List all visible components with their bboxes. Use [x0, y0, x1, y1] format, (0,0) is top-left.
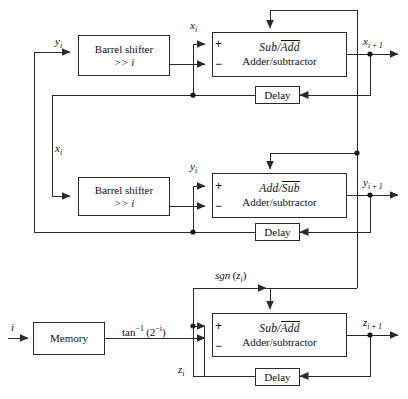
label-arctan-fn: tan — [122, 326, 135, 338]
label-index-i: i — [11, 322, 14, 333]
label-sgn-close: ) — [243, 269, 247, 281]
barrel-shifter-1-line1: Barrel shifter — [95, 43, 153, 56]
label-y-out-sub: i + 1 — [368, 182, 383, 191]
label-z-i: zi — [178, 364, 185, 378]
adder-3-operation: Sub/Add — [259, 322, 299, 335]
delay-2[interactable]: Delay — [255, 223, 300, 241]
adder-3-plus-sign: + — [215, 320, 222, 332]
adder-3-minus-sign: − — [215, 340, 222, 352]
wire-zi-riser — [204, 326, 205, 376]
junction-x-feedback — [190, 92, 195, 97]
wire-xi-to-adder1-plus — [193, 44, 205, 98]
label-x-i2-sub: i — [60, 148, 62, 157]
adder-2-plus-sign: + — [215, 180, 222, 192]
adder-subtractor-3[interactable]: Sub/Add Adder/subtractor — [212, 313, 347, 357]
barrel-shifter-1-line2: >> i — [114, 56, 135, 69]
junction-z-out — [367, 332, 372, 337]
label-arctan-rom-output: tan−1 (2−i) — [122, 325, 166, 338]
delay-2-label: Delay — [264, 226, 290, 239]
wire-yi-to-adder2-plus — [193, 186, 205, 232]
adder-3-subtitle: Adder/subtractor — [242, 336, 317, 349]
label-arctan-arg-close: ) — [162, 326, 166, 338]
adder-2-op-left: Add — [259, 182, 278, 194]
barrel-shifter-2[interactable]: Barrel shifter >> i — [78, 177, 170, 216]
adder-1-operation: Sub/Add — [259, 41, 299, 54]
adder-subtractor-2[interactable]: Add/Sub Adder/subtractor — [212, 173, 347, 218]
label-sgn-fn: sgn — [215, 269, 230, 281]
label-x-i-stage1: xi — [190, 20, 197, 34]
junction-y-feedback — [190, 229, 195, 234]
label-sgn-z-i: sgn (zi) — [215, 270, 246, 284]
label-x-i-sub: i — [195, 25, 197, 34]
adder-3-op-left: Sub — [259, 322, 277, 334]
label-z-i-sub: i — [182, 369, 184, 378]
adder-2-operation: Add/Sub — [259, 182, 299, 195]
junction-y-out — [367, 192, 372, 197]
barrel-shifter-2-line2: >> i — [114, 197, 135, 210]
label-y-i-sub: i — [60, 41, 62, 50]
label-y-i-stage2: yi — [190, 161, 197, 175]
delay-1[interactable]: Delay — [255, 86, 300, 104]
memory-rom[interactable]: Memory — [33, 322, 105, 355]
adder-1-plus-sign: + — [215, 38, 222, 50]
label-x-i-stage2: xi — [55, 143, 62, 157]
label-y-i-input: yi — [55, 36, 62, 50]
label-y-i2-sub: i — [195, 166, 197, 175]
wire-sgn-bus-to-adder2 — [270, 153, 357, 169]
delay-1-label: Delay — [264, 89, 290, 102]
adder-1-op-right: Add — [281, 40, 300, 53]
adder-2-minus-sign: − — [215, 200, 222, 212]
cordic-diagram: Barrel shifter >> i Sub/Add Adder/subtra… — [0, 0, 408, 399]
barrel-shifter-1[interactable]: Barrel shifter >> i — [78, 35, 170, 76]
label-arctan-arg-base: (2 — [146, 326, 155, 338]
adder-3-op-right: Add — [281, 321, 300, 334]
adder-1-subtitle: Adder/subtractor — [242, 55, 317, 68]
label-x-out-sub: i + 1 — [368, 41, 383, 50]
junction-z-sign-tap — [190, 323, 195, 328]
memory-label: Memory — [50, 332, 88, 345]
adder-subtractor-1[interactable]: Sub/Add Adder/subtractor — [212, 32, 347, 77]
adder-1-minus-sign: − — [215, 58, 222, 70]
label-y-i-plus-1: yi + 1 — [363, 177, 383, 191]
adder-2-subtitle: Adder/subtractor — [242, 196, 317, 209]
junction-sgn-bus-tap — [354, 150, 359, 155]
adder-1-op-left: Sub — [259, 41, 277, 53]
label-z-out-sub: i + 1 — [367, 322, 382, 331]
delay-3[interactable]: Delay — [255, 368, 300, 386]
label-z-i-plus-1: zi + 1 — [363, 317, 382, 331]
junction-x-out — [367, 51, 372, 56]
barrel-shifter-2-line1: Barrel shifter — [95, 184, 153, 197]
label-arctan-exp: −1 — [135, 324, 144, 333]
adder-2-op-right: Sub — [282, 181, 300, 194]
delay-3-label: Delay — [264, 371, 290, 384]
label-x-i-plus-1: xi + 1 — [363, 36, 383, 50]
